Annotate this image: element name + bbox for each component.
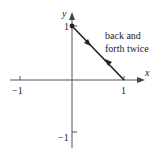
x-tick-label-neg1: −1 [12, 85, 23, 96]
plot-canvas: x y −1 1 1 −1 back and forth twice [0, 0, 155, 151]
y-axis-label: y [61, 8, 67, 19]
x-tick-label-1: 1 [121, 85, 126, 96]
y-tick-label-neg1: −1 [58, 132, 69, 143]
annotation-line1: back and [105, 30, 141, 41]
y-tick-label-1: 1 [64, 21, 69, 32]
annotation-line2: forth twice [105, 43, 149, 54]
x-axis-label: x [144, 67, 150, 78]
x-axis-arrow-icon [137, 77, 145, 83]
y-axis-arrow-icon [69, 12, 75, 20]
start-point [70, 24, 75, 29]
